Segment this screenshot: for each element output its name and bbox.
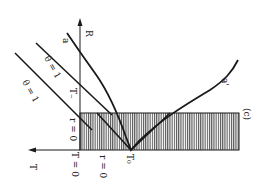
label-a-prime: a' — [220, 78, 230, 86]
r-axis-arrow-icon — [78, 18, 83, 26]
label-a: a — [61, 38, 71, 44]
label-t-0: T = 0 — [70, 152, 80, 177]
theta-line-inner — [36, 43, 112, 115]
label-r-0-bottom: r = 0 — [98, 155, 108, 179]
label-theta-1: θ = 1 — [42, 54, 63, 80]
panel-label: (c) — [242, 108, 252, 120]
label-t0: T₀ — [125, 154, 135, 164]
label-t-minus: T₋ — [68, 88, 78, 99]
spacetime-diagram: R T a a' θ = 1 θ = 1 T₋ r = 0 T = 0 r = … — [0, 0, 264, 182]
label-t-axis: T — [28, 164, 38, 170]
t-axis-arrow-icon — [28, 148, 36, 153]
shaded-region — [80, 113, 239, 150]
label-r-0-left: r = 0 — [68, 118, 78, 142]
label-r-axis: R — [84, 30, 94, 37]
label-theta-0: θ = 1 — [20, 78, 41, 104]
